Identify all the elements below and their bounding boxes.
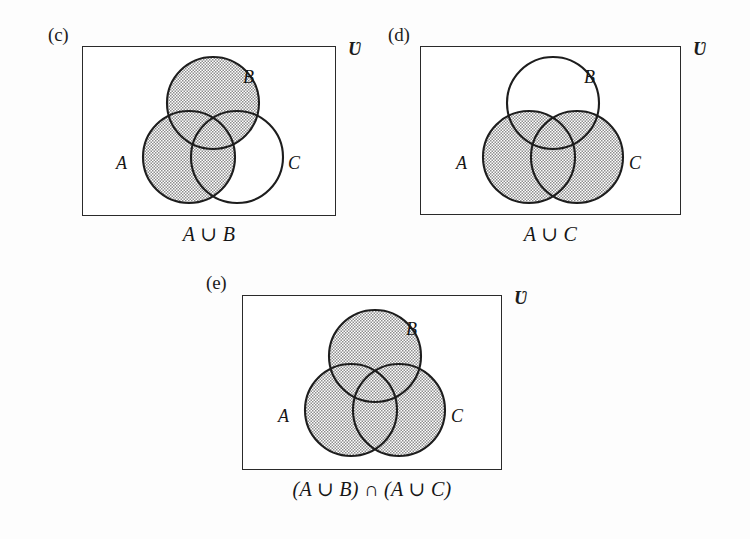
panel-e-venn-svg [243, 296, 503, 471]
panel-e-tag: (e) [206, 272, 227, 294]
panel-e: (e) Ʋ A B C (A ∪ B) ∩ (A ∪ C) [0, 0, 750, 539]
panel-e-label-c: C [451, 406, 463, 427]
panel-e-universe-symbol: Ʋ [514, 287, 528, 309]
panel-e-label-b: B [406, 319, 417, 340]
venn-figure: (c) Ʋ A B C A ∪ B (d) Ʋ A B C A ∪ C (e) … [0, 0, 750, 539]
panel-e-label-a: A [278, 406, 289, 427]
panel-e-universe-box: A B C [242, 295, 502, 470]
panel-e-caption: (A ∪ B) ∩ (A ∪ C) [242, 477, 502, 501]
